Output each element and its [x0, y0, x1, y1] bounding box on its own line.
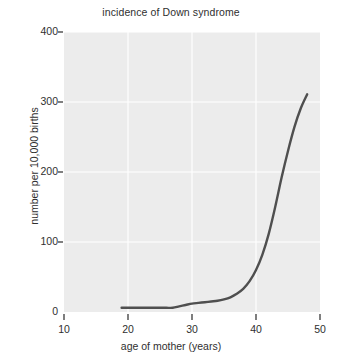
chart-figure: incidence of Down syndrome 0100200300400…	[0, 0, 342, 364]
x-tick-label: 20	[108, 324, 148, 335]
x-tick-label: 10	[44, 324, 84, 335]
x-axis-label: age of mother (years)	[0, 340, 342, 352]
y-tick-label: 400	[28, 26, 58, 37]
x-tick-label: 30	[172, 324, 212, 335]
y-tick-label: 0	[28, 306, 58, 317]
y-axis-label: number per 10,000 births	[28, 66, 40, 266]
x-tick-label: 50	[300, 324, 340, 335]
x-tick-label: 40	[236, 324, 276, 335]
